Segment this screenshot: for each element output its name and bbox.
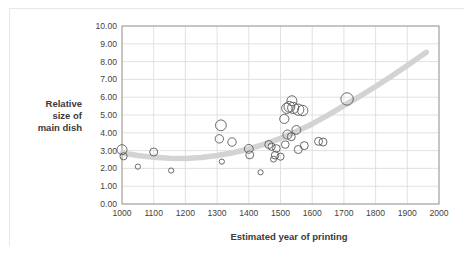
y-tick-label: 9.00: [100, 39, 117, 49]
y-tick-label: 2.00: [100, 163, 117, 173]
y-tick-label: 6.00: [100, 92, 117, 102]
scatter-chart: 1000110012001300140015001600170018001900…: [10, 9, 465, 247]
chart-figure: 1000110012001300140015001600170018001900…: [9, 8, 464, 246]
y-axis-title-line: main dish: [38, 122, 83, 133]
y-tick-label: 3.00: [100, 146, 117, 156]
y-tick-label: 10.00: [95, 21, 117, 31]
x-tick-label: 1900: [398, 208, 417, 218]
x-tick-label: 1200: [176, 208, 195, 218]
y-tick-label: 8.00: [100, 57, 117, 67]
x-tick-label: 1500: [271, 208, 290, 218]
y-tick-label: 7.00: [100, 74, 117, 84]
y-axis-title-line: size of: [52, 110, 82, 121]
x-tick-label: 1800: [366, 208, 385, 218]
y-axis-title-line: Relative: [46, 98, 82, 109]
y-tick-label: 0.00: [100, 199, 117, 209]
y-tick-label: 5.00: [100, 110, 117, 120]
x-tick-label: 1300: [208, 208, 227, 218]
x-axis-title: Estimated year of printing: [230, 231, 347, 242]
x-tick-label: 1700: [334, 208, 353, 218]
x-tick-label: 1600: [303, 208, 322, 218]
x-tick-label: 1100: [144, 208, 163, 218]
x-axis-tick-labels: 1000110012001300140015001600170018001900…: [112, 208, 448, 218]
y-tick-label: 4.00: [100, 128, 117, 138]
x-tick-label: 1400: [239, 208, 258, 218]
x-tick-label: 1000: [112, 208, 131, 218]
x-tick-label: 2000: [429, 208, 448, 218]
y-tick-label: 1.00: [100, 181, 117, 191]
